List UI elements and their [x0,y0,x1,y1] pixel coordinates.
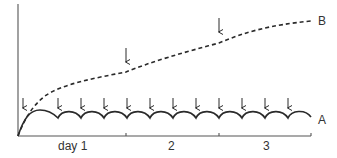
dose-arrows-a [23,98,288,108]
series-label-b: B [318,15,326,27]
x-label-day1: day 1 [58,140,87,152]
curve-a [18,110,311,136]
dosing-diagram [0,0,337,158]
x-label-day2: 2 [168,140,175,152]
x-label-day3: 3 [263,140,270,152]
axes [18,4,311,136]
curve-b [18,21,311,136]
series-label-a: A [318,114,326,126]
